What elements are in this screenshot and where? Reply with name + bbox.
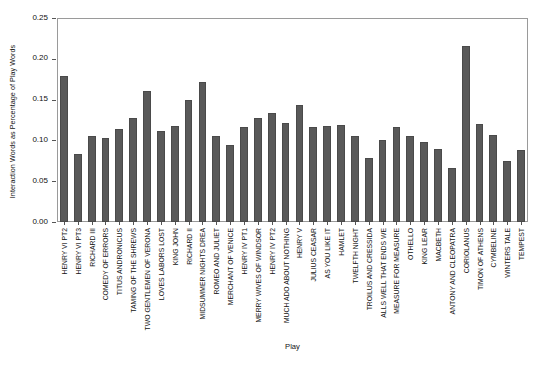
- x-axis-tick-labels: HENRY VI PT2HENRY VI PT3RICHARD IIICOMED…: [57, 226, 528, 341]
- bar-item: [448, 18, 456, 222]
- x-axis-tick-label-text: COMEDY OF ERRORS: [102, 228, 109, 300]
- x-axis-tick-label-text: CYMBELINE: [490, 228, 497, 267]
- y-axis-tick-label: 0.25: [32, 13, 48, 22]
- bar: [199, 82, 207, 222]
- x-axis-tick-label-text: OTHELLO: [407, 228, 414, 260]
- x-axis-tick-label-text: MERCHANT OF VENICE: [227, 228, 234, 305]
- x-axis-tick-label-text: HENRY VI PT2: [61, 228, 68, 274]
- y-axis-tick-mark: [52, 181, 56, 182]
- y-axis-title: Interaction Words as Percentage of Play …: [6, 18, 20, 224]
- x-axis-tick-label-text: KING JOHN: [172, 228, 179, 265]
- x-axis-tick-label-text: TAMING OF THE SHREWS: [130, 228, 137, 313]
- bar: [476, 124, 484, 222]
- x-axis-tick-label-text: RICHARD II: [186, 228, 193, 265]
- x-axis-tick-label-text: MIDSUMMER NIGHTS DREA: [199, 228, 206, 319]
- x-axis-tick-mark: [161, 222, 162, 225]
- y-axis-tick-label: 0.00: [32, 217, 48, 226]
- y-axis-tick-label: 0.20: [32, 53, 48, 62]
- bar: [129, 118, 137, 222]
- bar: [462, 46, 470, 222]
- bar: [420, 142, 428, 222]
- bar: [296, 105, 304, 222]
- bar-item: [476, 18, 484, 222]
- x-axis-tick-mark: [410, 222, 411, 225]
- bar-item: [157, 18, 165, 222]
- bar-item: [212, 18, 220, 222]
- x-axis-tick-label-text: JULIUS CEASAR: [310, 228, 317, 282]
- bar-item: [365, 18, 373, 222]
- x-axis-tick-mark: [493, 222, 494, 225]
- bar-item: [489, 18, 497, 222]
- x-axis-tick-label-text: TWELFTH NIGHT: [352, 228, 359, 283]
- x-axis-tick-mark: [507, 222, 508, 225]
- bar: [226, 145, 234, 222]
- x-axis-tick-label-text: LOVES LABORS LOST: [158, 228, 165, 300]
- x-axis-tick-label-text: HENRY IV PT2: [269, 228, 276, 274]
- x-axis-tick-label-text: TROILUS AND CRESSIDA: [366, 228, 373, 310]
- bar: [517, 150, 525, 222]
- bar-item: [115, 18, 123, 222]
- bar-item: [309, 18, 317, 222]
- x-axis-tick-mark: [64, 222, 65, 225]
- x-axis-tick-mark: [313, 222, 314, 225]
- bar: [503, 161, 511, 222]
- x-axis-tick-mark: [78, 222, 79, 225]
- bar: [489, 135, 497, 222]
- x-axis-tick-mark: [202, 222, 203, 225]
- bar-item: [517, 18, 525, 222]
- bar-item: [420, 18, 428, 222]
- x-axis-tick-mark: [272, 222, 273, 225]
- bar-item: [434, 18, 442, 222]
- x-axis-tick-mark: [327, 222, 328, 225]
- bar-item: [102, 18, 110, 222]
- bar-item: [296, 18, 304, 222]
- x-axis-tick-mark: [424, 222, 425, 225]
- x-axis-tick-mark: [355, 222, 356, 225]
- bar-chart-figure: Interaction Words as Percentage of Play …: [0, 0, 558, 367]
- x-axis-tick-mark: [466, 222, 467, 225]
- x-axis-tick-label-text: KING LEAR: [421, 228, 428, 264]
- bar-item: [74, 18, 82, 222]
- x-axis-tick-label-text: MERRY WIVES OF WINDSOR: [255, 228, 262, 323]
- bar: [157, 131, 165, 222]
- bar: [323, 126, 331, 222]
- x-axis-tick-mark: [396, 222, 397, 225]
- bar: [143, 91, 151, 222]
- bar: [393, 127, 401, 222]
- bar: [240, 127, 248, 222]
- x-axis-tick-mark: [438, 222, 439, 225]
- bar-item: [393, 18, 401, 222]
- bar-item: [199, 18, 207, 222]
- x-axis-tick-label-text: WINTERS TALE: [504, 228, 511, 278]
- x-axis-tick-mark: [147, 222, 148, 225]
- bar: [448, 168, 456, 222]
- y-axis-tick-mark: [52, 140, 56, 141]
- x-axis-tick-mark: [480, 222, 481, 225]
- x-axis-tick-mark: [244, 222, 245, 225]
- x-axis-tick-mark: [258, 222, 259, 225]
- bar: [74, 154, 82, 222]
- y-axis-title-text: Interaction Words as Percentage of Play …: [9, 44, 18, 197]
- x-axis-tick-label-text: MEASURE FOR MEASURE: [393, 228, 400, 314]
- x-axis-title: Play: [57, 342, 528, 351]
- x-axis-tick-mark: [133, 222, 134, 225]
- bar: [337, 125, 345, 222]
- bar: [434, 149, 442, 222]
- x-axis-tick-mark: [299, 222, 300, 225]
- x-axis-tick-label-text: HENRY VI PT3: [75, 228, 82, 274]
- bar-item: [171, 18, 179, 222]
- x-axis-tick-label-text: TEMPEST: [518, 228, 525, 260]
- bar: [115, 129, 123, 222]
- bar: [212, 136, 220, 222]
- x-axis-tick-label-text: TIMON OF ATHENS: [477, 228, 484, 290]
- x-axis-tick-label-text: MUCH ADO ABOUT NOTHING: [283, 228, 290, 323]
- y-axis-tick-label: 0.05: [32, 176, 48, 185]
- bar-item: [282, 18, 290, 222]
- x-axis-tick-mark: [452, 222, 453, 225]
- x-axis-tick-mark: [119, 222, 120, 225]
- x-axis-tick-label-text: TWO GENTLEMEN OF VERONA: [144, 228, 151, 330]
- bar-item: [254, 18, 262, 222]
- x-axis-tick-label-text: TITUS ANDRONICUS: [116, 228, 123, 295]
- y-axis-tick-mark: [52, 100, 56, 101]
- x-axis-tick-label-text: HENRY IV PT1: [241, 228, 248, 274]
